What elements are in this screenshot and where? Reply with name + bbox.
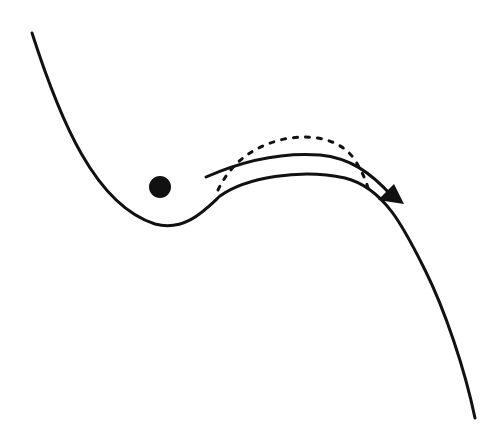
landscape-curve <box>32 33 475 418</box>
ball <box>149 176 171 198</box>
diagram-canvas <box>0 0 500 429</box>
energy-landscape-diagram <box>0 0 500 429</box>
